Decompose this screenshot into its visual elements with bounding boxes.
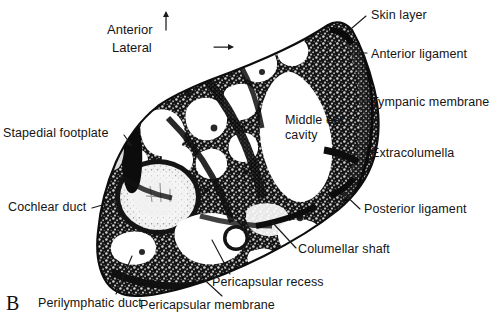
panel-letter: B: [6, 292, 19, 315]
label-cochlear-duct: Cochlear duct: [8, 200, 86, 215]
orientation-arrows: [166, 13, 232, 47]
right-arrow-head: [228, 44, 234, 50]
label-posterior-ligament: Posterior ligament: [364, 202, 467, 217]
label-columellar-shaft: Columellar shaft: [298, 242, 390, 257]
label-anterior-ligament: Anterior ligament: [371, 47, 467, 62]
orientation-label-anterior: Anterior: [107, 22, 153, 37]
label-stapedial-footplate: Stapedial footplate: [3, 126, 108, 141]
leader-skin-layer: [352, 16, 366, 28]
figure-panel-b: Anterior Lateral Skin layer Anterior lig…: [0, 0, 492, 318]
up-arrow-head: [163, 11, 169, 17]
label-middle-ear-cavity: Middle ear cavity: [285, 113, 349, 144]
label-extracolumella: Extracolumella: [371, 146, 454, 161]
label-pericapsular-recess: Pericapsular recess: [212, 275, 324, 290]
perilymphatic-duct-lumen: [111, 232, 156, 265]
label-skin-layer: Skin layer: [371, 8, 427, 23]
orientation-label-lateral: Lateral: [112, 40, 152, 55]
label-tympanic-membrane: Tympanic membrane: [371, 95, 489, 110]
label-perilymphatic-duct: Perilymphatic duct: [38, 296, 142, 311]
label-pericapsular-membrane: Pericapsular membrane: [140, 298, 275, 313]
